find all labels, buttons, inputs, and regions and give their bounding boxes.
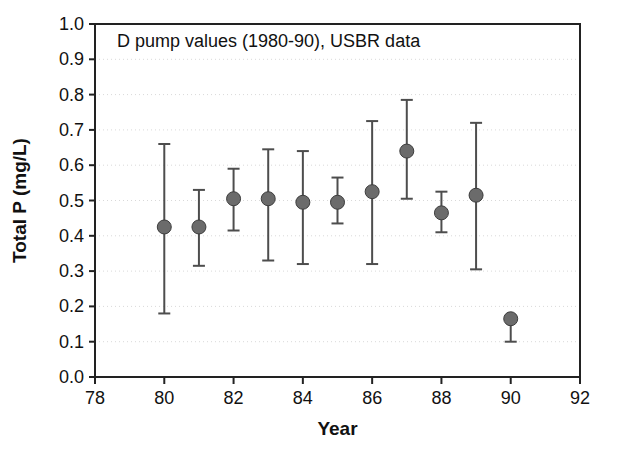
data-point xyxy=(296,195,310,209)
data-point xyxy=(227,192,241,206)
x-tick-label: 82 xyxy=(224,388,244,408)
x-axis-label: Year xyxy=(317,418,358,439)
y-tick-label: 0.1 xyxy=(59,332,84,352)
x-tick-label: 84 xyxy=(293,388,313,408)
y-tick-label: 0.5 xyxy=(59,191,84,211)
y-tick-label: 0.7 xyxy=(59,120,84,140)
data-point xyxy=(365,185,379,199)
x-tick-label: 90 xyxy=(501,388,521,408)
y-tick-label: 0.8 xyxy=(59,85,84,105)
data-point xyxy=(261,192,275,206)
y-tick-label: 0.4 xyxy=(59,226,84,246)
y-tick-label: 0.3 xyxy=(59,261,84,281)
y-tick-label: 0.0 xyxy=(59,367,84,387)
y-tick-label: 1.0 xyxy=(59,14,84,34)
data-point xyxy=(434,206,448,220)
x-tick-label: 92 xyxy=(570,388,590,408)
data-point xyxy=(192,220,206,234)
data-point xyxy=(469,188,483,202)
data-point xyxy=(331,195,345,209)
y-tick-label: 0.9 xyxy=(59,49,84,69)
x-axis-ticks: 7880828486889092 xyxy=(85,377,590,408)
x-tick-label: 80 xyxy=(154,388,174,408)
data-point xyxy=(400,144,414,158)
data-point-series xyxy=(157,144,517,326)
chart-figure: 0.00.10.20.30.40.50.60.70.80.91.0 788082… xyxy=(0,0,622,458)
errorbar-series xyxy=(158,100,516,342)
x-tick-label: 86 xyxy=(362,388,382,408)
y-tick-label: 0.6 xyxy=(59,155,84,175)
x-tick-label: 88 xyxy=(431,388,451,408)
data-point xyxy=(157,220,171,234)
chart-plot-area: 0.00.10.20.30.40.50.60.70.80.91.0 788082… xyxy=(0,0,622,458)
y-axis-label: Total P (mg/L) xyxy=(9,138,30,263)
data-point xyxy=(504,312,518,326)
y-tick-label: 0.2 xyxy=(59,296,84,316)
y-axis-ticks: 0.00.10.20.30.40.50.60.70.80.91.0 xyxy=(59,14,95,387)
x-tick-label: 78 xyxy=(85,388,105,408)
chart-title: D pump values (1980-90), USBR data xyxy=(117,31,421,51)
